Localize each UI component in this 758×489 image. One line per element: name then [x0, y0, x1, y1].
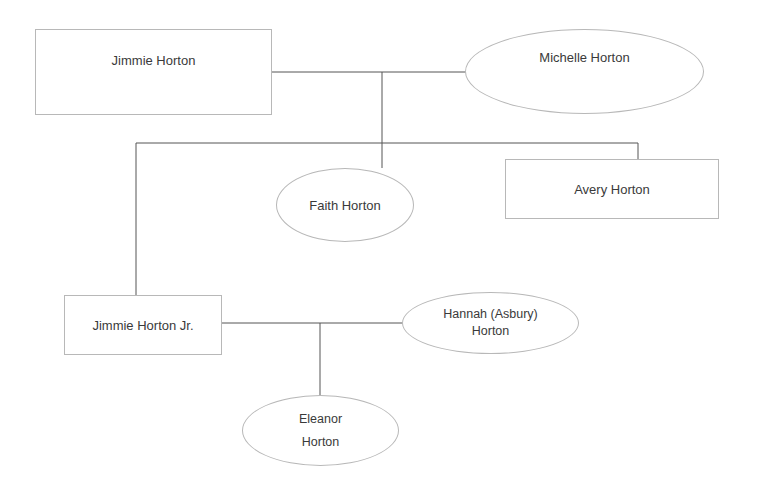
node-label: Avery Horton	[574, 181, 650, 198]
node-faith-horton: Faith Horton	[276, 168, 414, 242]
node-label: Michelle Horton	[539, 49, 629, 66]
node-label: Faith Horton	[309, 197, 381, 214]
node-jimmie-horton-jr: Jimmie Horton Jr.	[64, 295, 222, 355]
node-label: Jimmie Horton	[112, 52, 196, 69]
node-avery-horton: Avery Horton	[505, 159, 719, 219]
node-jimmie-horton: Jimmie Horton	[35, 29, 272, 115]
node-label: Hannah (Asbury) Horton	[443, 306, 538, 340]
node-label: Jimmie Horton Jr.	[92, 317, 193, 334]
node-michelle-horton: Michelle Horton	[465, 29, 704, 114]
node-hannah-asbury-horton: Hannah (Asbury) Horton	[402, 292, 579, 354]
node-label: Eleanor Horton	[299, 408, 342, 454]
node-eleanor-horton: Eleanor Horton	[242, 395, 399, 466]
